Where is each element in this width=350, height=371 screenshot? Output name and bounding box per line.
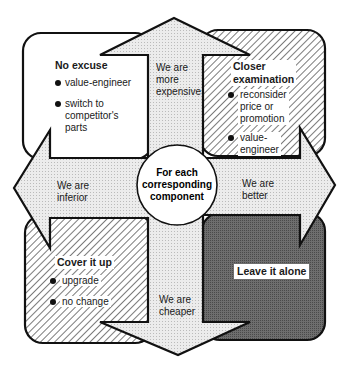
center-line-3: component: [142, 191, 212, 203]
bullet-value-engineer: value-engineer: [55, 77, 131, 89]
cover-it-up-title: Cover it up: [55, 256, 114, 269]
no-excuse-title: No excuse: [55, 59, 131, 72]
arrow-left-line-2: inferior: [57, 192, 89, 204]
bullet-switch-parts: switch to competitor's parts: [55, 98, 131, 134]
bullet-text-line-1: switch to: [65, 98, 131, 110]
title-line-2: examination: [233, 73, 294, 86]
bullet-text-line-3: promotion: [240, 113, 287, 125]
arrow-up-line-2: more: [156, 74, 201, 86]
arrow-down-line-1: We are: [159, 294, 195, 306]
arrow-right-line-2: better: [242, 190, 274, 202]
arrow-left-line-1: We are: [57, 180, 89, 192]
bullet-text: value-engineer: [65, 77, 131, 88]
arrow-right-line-1: We are: [242, 178, 274, 190]
quadrant-top-right-text: Closer examination reconsider price or p…: [231, 60, 296, 156]
center-line-1: For each: [142, 167, 212, 179]
bullet-text: upgrade: [60, 275, 101, 286]
closer-examination-title: Closer examination: [231, 60, 296, 86]
leave-it-alone-title: Leave it alone: [234, 264, 309, 279]
bullet-text-line-1: reconsider: [240, 89, 287, 101]
center-line-2: corresponding: [142, 179, 212, 191]
arrow-down-label: We are cheaper: [159, 294, 195, 318]
bullet-text-line-2: price or: [240, 101, 287, 113]
center-label: For each corresponding component: [137, 145, 217, 225]
bullet-no-change: no change: [50, 296, 111, 308]
arrow-up-line-3: expensive: [156, 86, 201, 98]
bullet-value-engineer: value- engineer: [228, 132, 293, 156]
bullet-upgrade: upgrade: [50, 275, 111, 287]
arrow-left-label: We are inferior: [57, 180, 89, 204]
quadrant-bottom-right-text: Leave it alone: [234, 264, 309, 279]
quadrant-top-left-text: No excuse value-engineer switch to compe…: [55, 59, 131, 134]
bullet-reconsider-price: reconsider price or promotion: [228, 89, 293, 125]
arrow-right-label: We are better: [242, 178, 274, 202]
arrow-down-line-2: cheaper: [159, 306, 195, 318]
bullet-text-line-2: engineer: [240, 144, 279, 156]
bullet-text-line-1: value-: [240, 132, 279, 144]
bullet-text-line-3: parts: [65, 122, 131, 134]
arrow-up-label: We are more expensive: [156, 62, 201, 98]
arrow-up-line-1: We are: [156, 62, 201, 74]
bullet-text-line-2: competitor's: [65, 110, 131, 122]
bullet-text: no change: [60, 296, 111, 307]
quadrant-bottom-left-text: Cover it up upgrade no change: [55, 256, 116, 308]
title-line-1: Closer: [233, 60, 294, 73]
